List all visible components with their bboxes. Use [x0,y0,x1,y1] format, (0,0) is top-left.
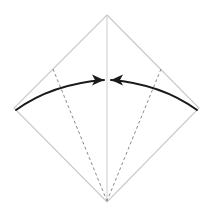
origami-fold-diagram [0,0,212,215]
origami-diagram-container [0,0,212,215]
